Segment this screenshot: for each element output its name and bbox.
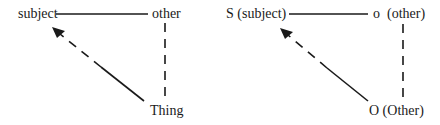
diagram-canvas: subject other Thing S (subject) o (other… xyxy=(0,0,440,125)
edge-thing-subject-dashed xyxy=(60,34,101,67)
left-diagram: subject other Thing xyxy=(18,6,183,118)
edge-thing-subject-solid xyxy=(101,67,144,101)
edge-thing-subject-dashed xyxy=(288,35,327,68)
node-other: other xyxy=(152,6,181,21)
node-subject: subject xyxy=(18,6,58,21)
node-thing: Thing xyxy=(150,103,183,118)
arrowhead-icon xyxy=(280,28,293,39)
node-other: o (other) xyxy=(373,6,425,22)
node-thing: O (Other) xyxy=(369,103,424,119)
node-subject: S (subject) xyxy=(226,6,287,22)
right-diagram: S (subject) o (other) O (Other) xyxy=(226,6,425,119)
edge-thing-subject-solid xyxy=(327,68,368,101)
